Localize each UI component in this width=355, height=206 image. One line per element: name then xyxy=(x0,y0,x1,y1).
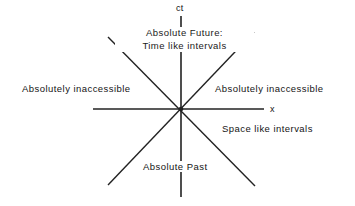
absolute-future-line-2: Time like intervals xyxy=(118,40,251,53)
absolute-past-region-label: Absolute Past xyxy=(141,161,209,172)
origin-point xyxy=(179,107,184,112)
absolute-future-region-label: Absolute Future: Time like intervals xyxy=(115,27,254,52)
ct-axis-label: ct xyxy=(175,3,185,13)
left-inaccessible-region-label: Absolutely inaccessible xyxy=(20,83,133,94)
x-axis-label: x xyxy=(269,104,276,114)
right-inaccessible-region-label: Absolutely inaccessible xyxy=(213,83,326,94)
absolute-future-line-1: Absolute Future: xyxy=(118,27,251,40)
spacetime-diagram: ct x Absolute Future: Time like interval… xyxy=(0,0,355,206)
spacelike-intervals-label: Space like intervals xyxy=(220,123,315,134)
